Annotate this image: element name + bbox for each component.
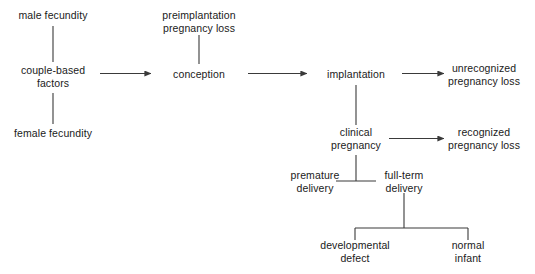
node-clinical-pregnancy: clinical pregnancy [331, 126, 381, 151]
node-label-line: unrecognized [448, 62, 520, 75]
node-label-line: premature [291, 169, 340, 182]
node-female-fecundity: female fecundity [14, 127, 92, 140]
node-recognized-pregnancy-loss: recognized pregnancy loss [448, 126, 520, 151]
node-normal-infant: normal infant [452, 239, 485, 264]
node-label-line: factors [21, 76, 85, 89]
node-label-line: pregnancy [331, 138, 381, 151]
node-label-line: female fecundity [14, 127, 92, 140]
node-label-line: recognized [448, 126, 520, 139]
node-developmental-defect: developmental defect [320, 239, 390, 264]
node-label-line: normal [452, 239, 485, 252]
node-label-line: male fecundity [18, 9, 87, 22]
node-label-line: implantation [327, 68, 385, 81]
node-label-line: delivery [385, 181, 424, 194]
node-premature-delivery: premature delivery [291, 169, 340, 194]
node-implantation: implantation [327, 68, 385, 81]
node-full-term-delivery: full-term delivery [385, 169, 424, 194]
node-preimplantation-pregnancy-loss: preimplantation pregnancy loss [162, 9, 235, 34]
flowchart-diagram: male fecundity couple-based factors fema… [0, 0, 535, 274]
node-label-line: delivery [291, 181, 340, 194]
node-label-line: developmental [320, 239, 390, 252]
node-conception: conception [173, 68, 225, 81]
node-label-line: defect [320, 251, 390, 264]
node-male-fecundity: male fecundity [18, 9, 87, 22]
node-unrecognized-pregnancy-loss: unrecognized pregnancy loss [448, 62, 520, 87]
node-label-line: pregnancy loss [448, 138, 520, 151]
node-label-line: pregnancy loss [162, 21, 235, 34]
node-label-line: couple-based [21, 64, 85, 77]
node-couple-based-factors: couple-based factors [21, 64, 85, 89]
node-label-line: conception [173, 68, 225, 81]
node-label-line: pregnancy loss [448, 74, 520, 87]
node-label-line: preimplantation [162, 9, 235, 22]
node-label-line: clinical [331, 126, 381, 139]
node-label-line: full-term [385, 169, 424, 182]
node-label-line: infant [452, 251, 485, 264]
